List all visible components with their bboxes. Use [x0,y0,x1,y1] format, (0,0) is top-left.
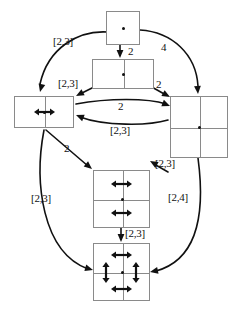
edge-upper-node-to-left-node-label: [2,3] [58,78,78,89]
edge-top-node-to-right-node-arrowhead [194,86,201,94]
horizontal-double-arrow-icon [109,207,134,219]
transition-diagram: [2,3]42[2,3]22[2,3]2[2,3][2,3][2,4][2,3] [0,0,239,310]
node-anchor-dot [122,73,125,76]
edge-right-node-to-bottom-node [156,158,201,271]
horizontal-double-arrow-icon [109,178,134,190]
node-anchor-dot [121,271,124,274]
node-anchor-dot [198,126,201,129]
edge-left-node-to-right-node-label: 2 [118,101,123,112]
node-anchor-dot [122,27,125,30]
horizontal-double-arrow-icon [109,283,134,295]
edge-top-node-to-upper-two-cell-node-label: 2 [128,46,133,57]
edge-top-node-to-left-node-arrowhead [37,83,46,92]
vertical-double-arrow-icon [130,260,142,285]
vertical-double-arrow-icon [100,260,112,285]
node-anchor-dot [121,198,124,201]
edge-upper-node-to-left-node-arrowhead [74,89,84,99]
edge-right-node-to-bottom-node-label: [2,4] [168,192,188,203]
edge-left-node-to-bottom-node-label: [2,3] [31,193,51,204]
edge-left-node-to-middle-node-label: 2 [64,143,69,154]
edge-right-node-to-left-node-label: [2,3] [110,125,130,136]
edge-top-node-to-left-node-label: [2,3] [53,36,73,47]
edge-right-node-to-left-node-arrowhead [75,112,85,121]
edge-top-node-to-upper-two-cell-node-arrowhead [117,50,124,58]
edge-middle-node-to-bottom-node-label: [2,3] [125,228,145,239]
edge-upper-node-to-right-node-label: 2 [156,79,161,90]
edge-right-node-to-middle-node-label: [2,3] [155,158,175,169]
edge-middle-node-to-bottom-node-arrowhead [118,234,125,242]
edge-top-node-to-right-node-label: 4 [161,42,166,53]
horizontal-double-arrow-icon [32,106,57,118]
edge-right-node-to-bottom-node-arrowhead [149,267,158,275]
